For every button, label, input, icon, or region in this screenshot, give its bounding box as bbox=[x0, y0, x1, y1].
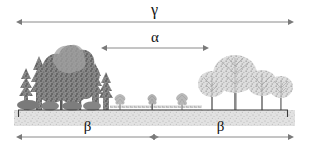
alpha-label: α bbox=[107, 30, 203, 45]
deciduous-tree bbox=[269, 76, 293, 110]
beta-right-label: β bbox=[153, 119, 288, 134]
dense-dark-forest bbox=[17, 45, 113, 111]
understory-shrubs bbox=[17, 100, 101, 111]
beta-left-label: β bbox=[22, 119, 153, 134]
clearing-grass-strip bbox=[110, 104, 202, 110]
gamma-label: γ bbox=[0, 2, 309, 18]
open-clearing bbox=[110, 93, 202, 110]
canopy-highlight bbox=[53, 45, 86, 73]
diversity-scale-diagram: γ α β β bbox=[0, 0, 309, 152]
open-woodland bbox=[198, 55, 293, 110]
